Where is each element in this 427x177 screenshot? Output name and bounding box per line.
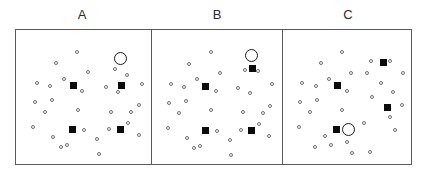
open-circle-marker [327, 77, 331, 81]
open-circle-marker [198, 144, 202, 148]
open-circle-marker [43, 110, 47, 114]
open-circle-marker [345, 140, 349, 144]
filled-square-marker [69, 126, 76, 133]
open-circle-marker [323, 134, 327, 138]
open-circle-marker [62, 77, 66, 81]
open-circle-marker [314, 84, 318, 88]
open-circle-marker [368, 150, 372, 154]
scatter-panel-b [151, 30, 282, 164]
highlight-ring-marker [245, 49, 258, 62]
open-circle-marker [391, 90, 395, 94]
open-circle-marker [349, 71, 353, 75]
panel-label-b: B [202, 8, 232, 21]
open-circle-marker [104, 85, 108, 89]
open-circle-marker [76, 108, 80, 112]
open-circle-marker [268, 104, 272, 108]
panel-divider-b-c [282, 30, 283, 164]
open-circle-marker [33, 100, 37, 104]
scatter-panel-a [16, 30, 151, 164]
open-circle-marker [182, 85, 186, 89]
open-circle-marker [35, 81, 39, 85]
open-circle-marker [209, 108, 213, 112]
open-circle-marker [365, 71, 369, 75]
open-circle-marker [137, 133, 141, 137]
open-circle-marker [393, 128, 397, 132]
filled-square-marker [70, 82, 77, 89]
open-circle-marker [177, 111, 181, 115]
open-circle-marker [298, 100, 302, 104]
open-circle-marker [185, 136, 189, 140]
open-circle-marker [218, 71, 222, 75]
figure-root: A B C [0, 0, 427, 177]
open-circle-marker [51, 135, 55, 139]
open-circle-marker [401, 71, 405, 75]
open-circle-marker [243, 68, 247, 72]
open-circle-marker [379, 81, 383, 85]
open-circle-marker [315, 98, 319, 102]
open-circle-marker [137, 103, 141, 107]
open-circle-marker [350, 151, 354, 155]
open-circle-marker [362, 121, 366, 125]
filled-square-marker [384, 104, 391, 111]
panel-label-c: C [333, 8, 363, 21]
open-circle-marker [95, 137, 99, 141]
filled-square-marker [202, 127, 209, 134]
plot-frame [15, 29, 412, 165]
filled-square-marker [118, 82, 125, 89]
open-circle-marker [236, 86, 240, 90]
open-circle-marker [400, 103, 404, 107]
open-circle-marker [75, 50, 79, 54]
open-circle-marker [388, 115, 392, 119]
open-circle-marker [86, 70, 90, 74]
open-circle-marker [340, 108, 344, 112]
open-circle-marker [187, 62, 191, 66]
open-circle-marker [319, 61, 323, 65]
open-circle-marker [109, 110, 113, 114]
filled-square-marker [248, 127, 255, 134]
open-circle-marker [228, 138, 232, 142]
filled-square-marker [380, 59, 387, 66]
open-circle-marker [241, 110, 245, 114]
open-circle-marker [313, 145, 317, 149]
open-circle-marker [113, 67, 117, 71]
open-circle-marker [209, 50, 213, 54]
filled-square-marker [249, 65, 256, 72]
open-circle-marker [80, 89, 84, 93]
open-circle-marker [257, 122, 261, 126]
open-circle-marker [59, 145, 63, 149]
filled-square-marker [333, 126, 340, 133]
open-circle-marker [116, 90, 120, 94]
open-circle-marker [369, 59, 373, 63]
open-circle-marker [166, 126, 170, 130]
open-circle-marker [48, 84, 52, 88]
panel-divider-a-b [151, 30, 152, 164]
open-circle-marker [107, 127, 111, 131]
open-circle-marker [65, 143, 69, 147]
open-circle-marker [184, 99, 188, 103]
open-circle-marker [340, 50, 344, 54]
highlight-ring-marker [114, 52, 127, 65]
open-circle-marker [192, 146, 196, 150]
open-circle-marker [388, 59, 392, 63]
filled-square-marker [334, 82, 341, 89]
open-circle-marker [167, 101, 171, 105]
open-circle-marker [345, 89, 349, 93]
open-circle-marker [297, 125, 301, 129]
scatter-panel-c [282, 30, 413, 164]
open-circle-marker [126, 121, 130, 125]
panel-label-a: A [67, 8, 97, 21]
filled-square-marker [202, 83, 209, 90]
open-circle-marker [370, 95, 374, 99]
open-circle-marker [140, 82, 144, 86]
open-circle-marker [31, 125, 35, 129]
open-circle-marker [256, 69, 260, 73]
open-circle-marker [215, 129, 219, 133]
filled-square-marker [117, 126, 124, 133]
open-circle-marker [214, 89, 218, 93]
open-circle-marker [261, 111, 265, 115]
open-circle-marker [125, 73, 129, 77]
open-circle-marker [329, 143, 333, 147]
open-circle-marker [267, 134, 271, 138]
open-circle-marker [195, 77, 199, 81]
open-circle-marker [248, 91, 252, 95]
